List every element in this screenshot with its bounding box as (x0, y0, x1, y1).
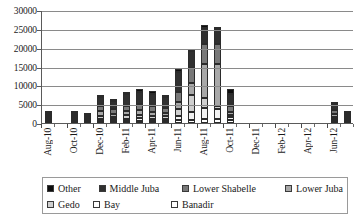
bar-segment (162, 121, 169, 123)
legend-item[interactable]: Gedo (47, 199, 93, 210)
x-axis-tick-label: Oct-11 (225, 128, 235, 153)
x-axis-tick (288, 124, 289, 127)
bar-segment (201, 108, 208, 119)
gridline (42, 11, 353, 12)
y-axis-tick-label: 30000 (14, 6, 37, 16)
bar-column (331, 105, 338, 123)
legend-label: Other (58, 183, 81, 194)
legend-label: Middle Juba (110, 183, 160, 194)
bar-segment (175, 92, 182, 102)
bar-column (162, 95, 169, 123)
bar-column (149, 92, 156, 123)
bar-column (344, 120, 351, 123)
x-axis-tick-label: Apr-11 (147, 128, 157, 154)
y-axis: 050001000015000200002500030000 (0, 11, 37, 124)
y-axis-tick-label: 5000 (18, 100, 37, 110)
x-axis-tick (158, 124, 159, 127)
bar-segment (201, 44, 208, 64)
x-axis-tick (262, 124, 263, 127)
bar-segment (214, 109, 221, 120)
x-axis-tick-label: Feb-12 (277, 128, 287, 154)
x-axis-tick (314, 124, 315, 127)
legend-label: Lower Juba (296, 183, 343, 194)
legend-item[interactable]: Other (47, 183, 99, 194)
legend-label: Gedo (58, 199, 80, 210)
x-axis-tick (132, 124, 133, 127)
legend-swatch-icon (47, 201, 54, 208)
gridline (42, 105, 353, 106)
gridline (42, 86, 353, 87)
bar-segment (201, 119, 208, 123)
legend-label: Bay (104, 199, 120, 210)
bar-segment (227, 120, 234, 123)
legend-swatch-icon (47, 185, 54, 192)
x-axis-tick (184, 124, 185, 127)
legend-item[interactable]: Lower Shabelle (182, 183, 285, 194)
legend-swatch-icon (182, 185, 189, 192)
bar-column (45, 122, 52, 123)
bar-segment (188, 120, 195, 123)
x-axis-tick-label: Dec-11 (251, 128, 261, 154)
x-axis-tick-label: Jun-12 (329, 128, 339, 153)
bar-segment (201, 64, 208, 98)
bar-column (136, 89, 143, 123)
x-axis-tick-label: Feb-11 (121, 128, 131, 153)
gridline (42, 68, 353, 69)
legend-item[interactable]: Banadir (171, 199, 214, 210)
bar-column (123, 92, 130, 123)
x-axis-tick-label: Dec-10 (95, 128, 105, 155)
bar-segment (188, 51, 195, 68)
bar-segment (123, 121, 130, 123)
bar-column (110, 101, 117, 123)
y-axis-tick-label: 15000 (14, 63, 37, 73)
bar-segment (149, 121, 156, 123)
bar-segment (175, 109, 182, 116)
y-axis-tick-label: 25000 (14, 25, 37, 35)
bar-column (214, 27, 221, 123)
x-axis-labels: Aug-10Oct-10Dec-10Feb-11Apr-11Jun-11Aug-… (41, 128, 353, 174)
bar-segment (123, 94, 130, 105)
gridline (42, 49, 353, 50)
bar-segment (188, 83, 195, 95)
bar-segment (344, 121, 351, 123)
stacked-bar-chart: 050001000015000200002500030000 Aug-10Oct… (0, 0, 358, 222)
bar-segment (214, 44, 221, 65)
x-axis-tick-label: Aug-11 (199, 128, 209, 155)
x-axis-tick-label: Apr-12 (303, 128, 313, 154)
bar-segment (136, 92, 143, 104)
x-axis-tick (106, 124, 107, 127)
bar-column (71, 122, 78, 123)
bar-segment (188, 95, 195, 112)
bar-segment (149, 94, 156, 105)
legend-row-2: GedoBayBanadir (47, 196, 343, 212)
bar-column (175, 69, 182, 123)
legend-item[interactable]: Lower Juba (285, 183, 343, 194)
x-axis-tick (210, 124, 211, 127)
x-axis-tick-label: Jun-11 (173, 128, 183, 152)
x-axis-tick (340, 124, 341, 127)
bar-segment (71, 121, 78, 123)
chart-legend: OtherMiddle JubaLower ShabelleLower Juba… (42, 177, 348, 214)
gridline (42, 30, 353, 31)
legend-swatch-icon (99, 185, 106, 192)
x-axis-tick-label: Oct-10 (69, 128, 79, 153)
legend-item[interactable]: Bay (93, 199, 171, 210)
bar-column (84, 121, 91, 123)
x-axis-tick-label: Aug-10 (43, 128, 53, 156)
x-axis-tick (54, 124, 55, 127)
legend-label: Lower Shabelle (193, 183, 256, 194)
legend-swatch-icon (93, 201, 100, 208)
bar-segment (175, 72, 182, 92)
bar-segment (188, 68, 195, 83)
legend-swatch-icon (171, 201, 178, 208)
x-axis-tick (80, 124, 81, 127)
y-axis-tick-label: 20000 (14, 44, 37, 54)
plot-area (41, 11, 353, 124)
bar-segment (136, 121, 143, 123)
bar-segment (97, 121, 104, 123)
legend-item[interactable]: Middle Juba (99, 183, 182, 194)
bar-segment (175, 120, 182, 123)
bar-column (97, 95, 104, 123)
bar-segment (214, 64, 221, 105)
bar-segment (188, 112, 195, 120)
